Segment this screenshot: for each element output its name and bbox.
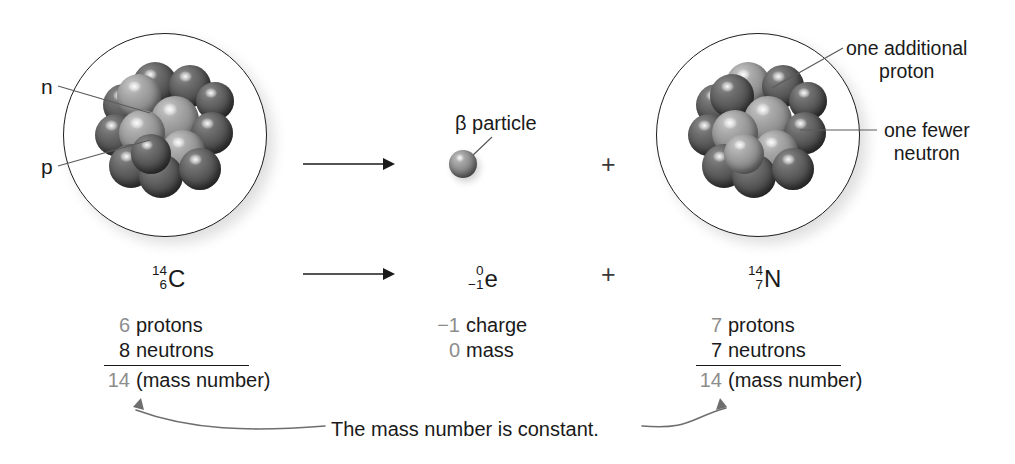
- mass-number-constant-caption: The mass number is constant.: [331, 418, 599, 441]
- beta-decay-diagram: n p β particle + +: [0, 0, 1015, 464]
- mass-number-constant-arrows: [0, 0, 1015, 464]
